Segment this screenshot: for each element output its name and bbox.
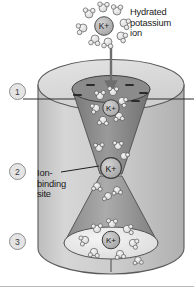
ion-label-exit: K+ — [106, 236, 116, 245]
figure-canvas: K+ K+ — [0, 0, 194, 287]
potassium-channel-diagram: K+ K+ — [0, 0, 194, 287]
step-marker-3: 3 — [9, 233, 26, 250]
hydrated-ion-top: K+ — [76, 2, 131, 49]
ion-binding-site-label: Ion- binding site — [37, 168, 66, 200]
ion-label-upper: K+ — [106, 104, 116, 113]
step-marker-2: 2 — [9, 163, 26, 180]
ion-label-top: K+ — [99, 21, 110, 31]
ion-label-binding: K+ — [106, 164, 117, 174]
step-marker-1: 1 — [9, 83, 26, 100]
hydrated-ion-label: Hydrated potassium ion — [130, 7, 171, 39]
